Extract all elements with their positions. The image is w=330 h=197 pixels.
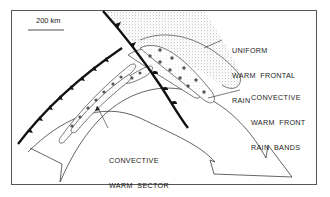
scale-bar-label: 200 km xyxy=(36,16,61,25)
label-line: UNIFORM xyxy=(232,47,295,55)
label-convective-warm-front-rain-bands: CONVECTIVE WARM FRONT RAIN BANDS xyxy=(251,77,306,161)
label-line: RAIN BANDS xyxy=(251,144,306,152)
label-line: CONVECTIVE xyxy=(251,94,306,102)
label-line: WARM FRONT xyxy=(251,119,306,127)
label-line: CONVECTIVE xyxy=(109,157,169,165)
label-convective-warm-sector-rain-bands: CONVECTIVE WARM SECTOR RAIN BANDS xyxy=(109,140,169,197)
label-line: WARM SECTOR xyxy=(109,182,169,190)
